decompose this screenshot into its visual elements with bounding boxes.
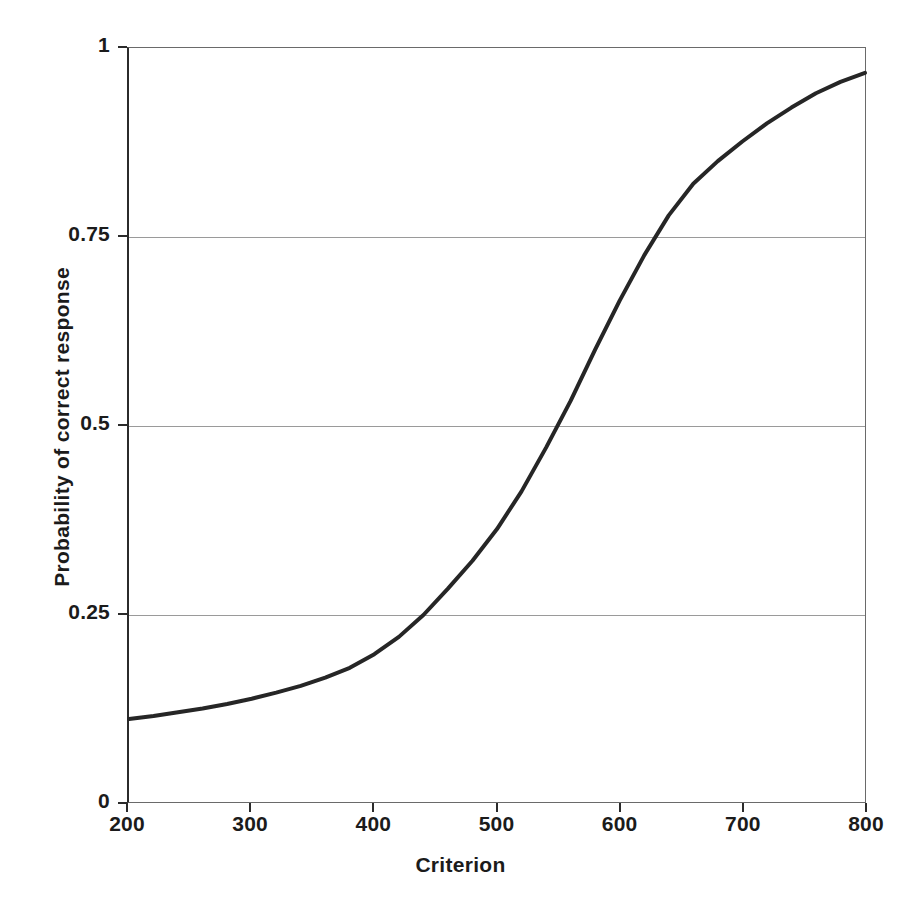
y-tick-label-0.25: 0.25 [68,600,110,624]
y-tick-mark-0.5 [118,424,127,426]
x-tick-mark-600 [619,803,621,812]
x-tick-mark-300 [249,803,251,812]
chart-figure: 00.250.50.751 200300400500600700800 Crit… [0,0,921,916]
y-tick-label-0.75: 0.75 [68,222,110,246]
x-tick-label-700: 700 [725,812,761,836]
y-axis-title: Probability of correct response [50,147,74,707]
y-tick-label-0: 0 [98,789,110,813]
x-tick-mark-700 [742,803,744,812]
x-tick-mark-200 [126,803,128,812]
x-tick-label-600: 600 [602,812,638,836]
plot-area [127,47,866,803]
x-tick-label-300: 300 [232,812,268,836]
x-axis-title: Criterion [0,853,921,877]
y-tick-label-1: 1 [98,33,110,57]
x-tick-label-200: 200 [109,812,145,836]
x-tick-mark-500 [496,803,498,812]
y-tick-mark-1 [118,46,127,48]
x-tick-label-500: 500 [479,812,515,836]
y-tick-mark-0.75 [118,235,127,237]
x-tick-mark-800 [865,803,867,812]
sigmoid-curve [129,48,865,802]
y-tick-label-0.5: 0.5 [80,411,110,435]
x-tick-label-400: 400 [356,812,392,836]
x-tick-label-800: 800 [848,812,884,836]
y-tick-mark-0.25 [118,613,127,615]
x-tick-mark-400 [372,803,374,812]
